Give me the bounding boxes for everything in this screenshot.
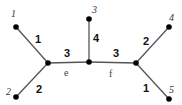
- leaf-node-3: [86, 16, 92, 22]
- leaf-label-2: 2: [6, 86, 11, 97]
- internal-label-e: e: [64, 67, 69, 78]
- leaf-label-3: 3: [91, 4, 97, 15]
- leaf-label-4: 4: [169, 12, 174, 23]
- leaf-node-1: [13, 24, 19, 30]
- edge-m-f: [89, 62, 136, 63]
- edge-4-f: [136, 27, 169, 63]
- edge-2-e: [16, 63, 48, 97]
- leaf-node-5: [166, 96, 172, 102]
- leaf-label-5: 5: [169, 84, 174, 95]
- leaf-node-2: [13, 94, 19, 100]
- weight-edge-5-f: 1: [143, 82, 149, 94]
- edge-5-f: [136, 63, 169, 99]
- weight-edge-1-e: 1: [35, 33, 41, 45]
- internal-label-f: f: [109, 68, 113, 79]
- weight-edge-2-e: 2: [36, 83, 42, 95]
- edge-e-m: [48, 62, 89, 63]
- weight-edge-4-f: 2: [143, 35, 149, 47]
- internal-node-f: [133, 60, 139, 66]
- leaf-node-4: [166, 24, 172, 30]
- tree-diagram: 1 2 3 4 5 e f 1 2 3 4 3 2 1: [0, 0, 182, 105]
- weight-edge-e-m: 3: [64, 47, 70, 59]
- internal-node-m: [86, 59, 92, 65]
- weight-edge-3-m: 4: [93, 32, 100, 44]
- leaf-label-1: 1: [11, 8, 16, 19]
- internal-node-e: [45, 60, 51, 66]
- weight-edge-m-f: 3: [113, 47, 119, 59]
- edge-1-e: [16, 27, 48, 63]
